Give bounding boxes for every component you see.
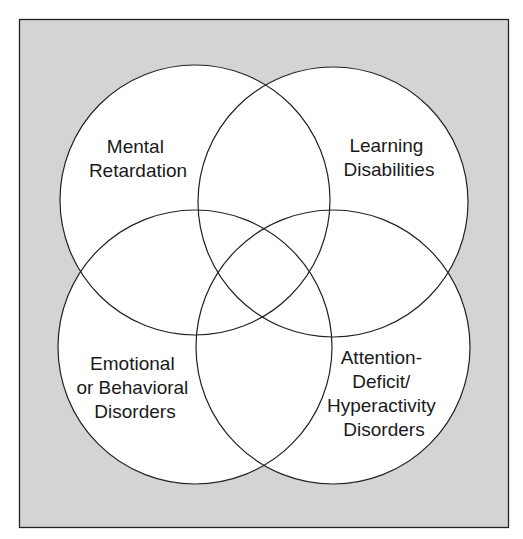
circle-fill-adhd xyxy=(196,210,470,484)
venn-diagram: Mental Retardation Learning Disabilities… xyxy=(0,0,523,539)
